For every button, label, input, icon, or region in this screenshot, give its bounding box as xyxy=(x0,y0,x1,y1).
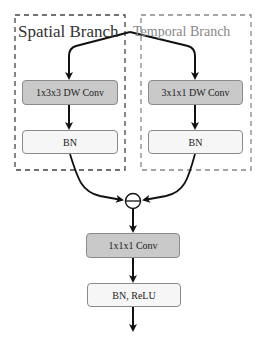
temporal-dw-conv-box: 3x1x1 DW Conv xyxy=(148,80,243,105)
temporal-branch-title: Temporal Branch xyxy=(133,25,230,39)
arrow-spatial-bn-to-merge xyxy=(70,154,122,200)
spatial-bn-box: BN xyxy=(22,130,118,154)
arrow-temporal-bn-to-merge xyxy=(144,154,195,200)
bn-relu-box: BN, ReLU xyxy=(87,283,181,307)
spatial-dw-conv-box: 1x3x3 DW Conv xyxy=(22,80,118,105)
pointwise-conv-box: 1x1x1 Conv xyxy=(86,233,180,258)
temporal-bn-box: BN xyxy=(148,130,243,154)
spatial-branch-title: Spatial Branch xyxy=(18,23,119,40)
